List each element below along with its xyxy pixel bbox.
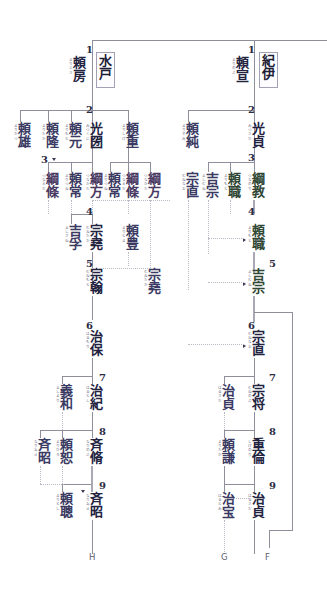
node-mito-yoritaka: よりたか 頼隆	[41, 122, 58, 148]
name-mito-tsunaeda: 綱條	[45, 172, 58, 198]
dotted-link-mito-tsunaeda	[48, 200, 49, 214]
genealogy-chart: 1 よりふさ 頼房 水戸 1 よりのぶ 頼宣 紀伊 2 よりかつ 頼雄 よりたか…	[0, 0, 327, 590]
name-kii-harutomi: 治宝	[221, 492, 234, 518]
name-mito-munetaka-b: 宗堯	[147, 268, 160, 294]
connector-kii-harusada9-down	[254, 520, 255, 554]
node-mito-mitsukuni: みつくに 光圀	[85, 122, 102, 148]
ordinal-mito-gen2: 2	[86, 104, 93, 115]
connector-mito-g3-yoritsune	[71, 162, 72, 172]
connector-mito-g3-tsunaeda	[48, 162, 49, 172]
name-mito-tsunakata: 綱方	[89, 172, 102, 198]
name-mito-nariaki: 斉昭	[37, 438, 50, 464]
connector-kii-gen8-bar	[224, 430, 254, 431]
connector-kii-g7-munenobu	[254, 376, 255, 384]
node-mito-yoritsune-b: よりつね 頼常	[103, 172, 120, 198]
name-kii-yoshimune-5: 吉宗	[251, 268, 264, 294]
node-kii-yorimoto-4: よりもと 頼職	[247, 224, 264, 250]
node-mito-tsunaeda-b: つなえだ 綱條	[121, 172, 138, 198]
name-kii-yoshimune: 吉宗	[205, 172, 218, 198]
name-kii-tsunanori: 綱教	[251, 172, 264, 198]
connector-kii-munenobu-down	[254, 412, 255, 430]
name-mito-yoritsune: 頼常	[68, 172, 81, 198]
connector-mito-g3-tsunakata2	[150, 162, 151, 172]
connector-mito-g9-nariaki	[91, 484, 93, 492]
connector-kii-yoritaka-down	[224, 466, 225, 484]
name-kii-mitsusada: 光貞	[251, 122, 264, 148]
ordinal-mito-gen1: 1	[86, 44, 93, 55]
node-mito-nariaki-9: なりあき 斉昭	[85, 492, 102, 518]
name-kii-shigenori: 重倫	[251, 438, 264, 464]
connector-kii-branch-f-vert	[292, 312, 293, 530]
name-mito-tsunaeda-b: 綱條	[125, 172, 138, 198]
name-mito-yoritoyo: 頼豊	[125, 224, 138, 250]
connector-mito-harutoshi-down	[92, 412, 93, 430]
connector-mito-gen3-bar-left	[48, 162, 92, 163]
connector-kii-g8-yoritaka	[224, 430, 225, 438]
dotted-link-mito-nariaki-down	[40, 466, 41, 484]
node-mito-munemoto: むねもと 宗翰	[85, 268, 102, 294]
ordinal-kii-gen9: 9	[269, 480, 276, 491]
name-mito-yorihiro: 頼恕	[59, 438, 72, 464]
connector-kii-yoshimune5-down	[253, 296, 255, 322]
connector-mito-g2-yoritaka	[48, 110, 49, 122]
connector-kii-shigenori-down	[254, 466, 255, 484]
name-kii-yoritaka: 頼謙	[221, 438, 234, 464]
dotted-link-kii-munenao	[188, 200, 189, 290]
node-mito-tsunakata-b: つなかた 綱方	[143, 172, 160, 198]
connector-mito-g3-tsunaeda2	[128, 162, 129, 172]
node-mito-tsunaeda: つなえだ 綱條	[41, 172, 58, 198]
connector-kii-gen9-bar	[224, 484, 254, 485]
node-mito-yorikatsu: よりかつ 頼雄	[13, 122, 30, 148]
connector-mito-g8-narinobu	[92, 430, 93, 438]
node-mito-yoritoshi: よりとし 頼聰	[55, 492, 72, 518]
marker-h: H	[89, 552, 96, 562]
arrow-mito-gen3-tsunaeda	[52, 158, 56, 161]
domain-box-mito: 水戸	[96, 52, 115, 88]
node-kii-tsunanori: つなのり 綱教	[247, 172, 264, 198]
ordinal-kii-gen2: 2	[248, 104, 255, 115]
name-mito-tsunakata-b: 綱方	[147, 172, 160, 198]
name-kii-yorimoto: 頼職	[227, 172, 240, 198]
node-kii-yorizumi: よりずみ 頼純	[181, 122, 198, 148]
connector-mito-gen8-bar	[40, 430, 92, 431]
dotted-link-mito-yoritsune	[71, 200, 72, 214]
node-kii-yorimoto: よりもと 頼職	[223, 172, 240, 198]
node-mito-harumori: はるもり 治保	[85, 330, 102, 356]
node-kii-munenao-6: むねなお 宗直	[247, 330, 264, 356]
name-mito-nariaki-9: 斉昭	[89, 492, 102, 518]
name-mito-harutoshi: 治紀	[89, 384, 102, 410]
ordinal-kii-gen4: 4	[248, 206, 255, 217]
connector-mito-gen2-bar	[20, 110, 128, 111]
name-mito-yoshiyori: 義和	[59, 384, 72, 410]
node-mito-yoritsune: よりつね 頼常	[64, 172, 81, 198]
name-kii-munenao-6: 宗直	[251, 330, 264, 356]
name-mito-yoritoshi: 頼聰	[59, 492, 72, 518]
dotted-bar-mito-gen5	[92, 268, 150, 269]
node-mito-yorihiro: よりひろ 頼恕	[55, 438, 72, 464]
connector-kii-g7-harusada	[224, 376, 225, 384]
name-kii-harusada-9: 治貞	[251, 492, 264, 518]
ordinal-kii-gen5: 5	[269, 258, 276, 269]
dotted-bar-kii-gen4	[208, 238, 244, 239]
connector-kii-g8-shigenori	[254, 430, 255, 438]
dotted-link-kii-harusada-down	[224, 412, 225, 430]
name-kii-yorimoto-4: 頼職	[251, 224, 264, 250]
node-kii-yoritaka: よりたか 頼謙	[217, 438, 234, 464]
connector-kii-g3-tsunanori-stem	[254, 162, 255, 172]
name-mito-mitsukuni: 光圀	[89, 122, 102, 148]
connector-marker-f-stem	[269, 530, 270, 548]
node-kii-harutomi: はるとみ 治宝	[217, 492, 234, 518]
connector-mito-g7-yoshiyori	[62, 376, 63, 384]
name-mito-harumori: 治保	[89, 330, 102, 356]
connector-mito-g7-harutoshi	[92, 376, 93, 384]
connector-mito-g8-yorihiro	[62, 430, 63, 438]
node-mito-yorimoto: よりもと 頼元	[64, 122, 81, 148]
marker-f: F	[265, 552, 270, 562]
node-kii-mitsusada: みつさだ 光貞	[247, 122, 264, 148]
dotted-link-mito-yoritoyo-down	[128, 252, 129, 266]
marker-g: G	[221, 552, 228, 562]
ordinal-mito-gen7: 7	[99, 372, 106, 383]
name-kii-munenao: 宗直	[185, 172, 198, 198]
connector-mito-nariaki9-to-h	[92, 520, 93, 554]
name-kii-yorizumi: 頼純	[185, 122, 198, 148]
